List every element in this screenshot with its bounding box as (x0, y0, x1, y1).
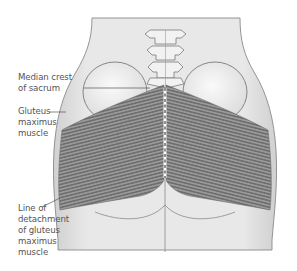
anatomy-figure: Median crest of sacrum Gluteus maximus m… (0, 0, 297, 271)
label-gluteus-maximus-muscle: Gluteus maximus muscle (18, 106, 57, 139)
label-line-of-detachment: Line of detachment of gluteus maximus mu… (18, 203, 69, 258)
label-median-crest-of-sacrum: Median crest of sacrum (18, 72, 72, 94)
